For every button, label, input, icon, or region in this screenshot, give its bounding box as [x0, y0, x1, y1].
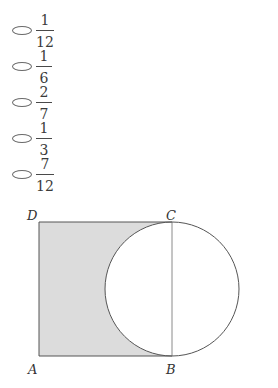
square-circle-diagram: [0, 0, 278, 388]
vertex-label-b: B: [166, 362, 176, 377]
vertex-label-a: A: [28, 362, 37, 377]
vertex-label-d: D: [27, 208, 37, 223]
vertex-label-c: C: [166, 208, 176, 223]
